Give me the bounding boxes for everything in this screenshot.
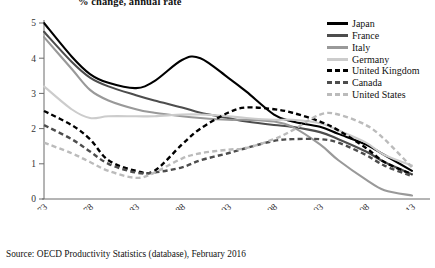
chart-page: % change, annual rate 012345 19731978198… — [0, 0, 435, 268]
x-tick-label: 2003 — [304, 202, 325, 210]
y-tick-label: 5 — [31, 18, 36, 28]
chart-title: % change, annual rate — [78, 0, 338, 7]
legend-item-france[interactable]: France — [327, 30, 435, 42]
x-tick-label: 2013 — [396, 202, 417, 210]
series-line-united-states — [44, 113, 412, 178]
legend-label: France — [352, 30, 379, 41]
legend-label: United Kingdom — [352, 65, 420, 76]
legend-label: Italy — [352, 42, 370, 53]
legend-label: Germany — [352, 54, 389, 65]
legend-swatch-icon — [327, 30, 348, 41]
y-tick-label: 0 — [31, 194, 36, 204]
legend-label: United States — [352, 89, 406, 100]
y-axis-ticks: 012345 — [31, 18, 44, 204]
legend-swatch-icon — [327, 65, 348, 76]
legend-item-united-kingdom[interactable]: United Kingdom — [327, 65, 435, 77]
legend-swatch-icon — [327, 42, 348, 53]
legend-item-germany[interactable]: Germany — [327, 53, 435, 65]
source-note: Source: OECD Productivity Statistics (da… — [6, 249, 246, 259]
legend-item-canada[interactable]: Canada — [327, 77, 435, 89]
x-tick-label: 1983 — [120, 202, 141, 210]
y-tick-label: 4 — [31, 54, 36, 64]
x-tick-label: 1978 — [74, 202, 95, 210]
legend-swatch-icon — [327, 89, 348, 100]
x-tick-label: 2008 — [350, 202, 371, 210]
legend-swatch-icon — [327, 77, 348, 88]
x-tick-label: 1988 — [166, 202, 187, 210]
legend-item-japan[interactable]: Japan — [327, 18, 435, 30]
legend-label: Japan — [352, 18, 375, 29]
chart-legend: JapanFranceItalyGermanyUnited KingdomCan… — [327, 18, 435, 100]
y-tick-label: 2 — [31, 124, 36, 134]
legend-swatch-icon — [327, 18, 348, 29]
legend-item-italy[interactable]: Italy — [327, 42, 435, 54]
x-tick-label: 1998 — [258, 202, 279, 210]
x-axis-ticks: 197319781983198819931998200320082013 — [28, 202, 417, 210]
legend-label: Canada — [352, 77, 382, 88]
x-tick-label: 1993 — [212, 202, 233, 210]
legend-swatch-icon — [327, 54, 348, 65]
y-tick-label: 3 — [31, 89, 36, 99]
y-tick-label: 1 — [31, 159, 36, 169]
legend-item-united-states[interactable]: United States — [327, 89, 435, 101]
